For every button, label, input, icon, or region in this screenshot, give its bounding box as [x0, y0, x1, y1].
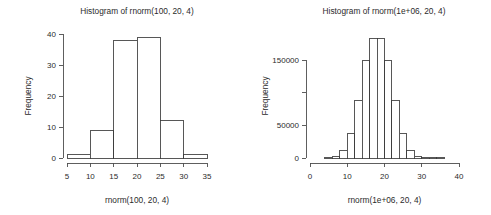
- histogram-bar: [399, 133, 406, 158]
- plot-title: Histogram of rnorm(1e+06, 20, 4): [323, 6, 446, 16]
- x-tick-label: 0: [308, 172, 313, 181]
- histogram-bar: [325, 157, 332, 158]
- y-tick-label: 30: [47, 61, 56, 70]
- x-tick-label: 5: [65, 172, 70, 181]
- histogram-bar: [160, 121, 183, 158]
- y-tick-label: 40: [47, 30, 56, 39]
- histogram-bars: [67, 37, 207, 158]
- histogram-bar: [429, 157, 436, 158]
- x-tick-label: 30: [417, 172, 426, 181]
- histogram-bar: [114, 40, 137, 158]
- x-tick-label: 15: [109, 172, 118, 181]
- x-axis-label: rnorm(100, 20, 4): [105, 195, 169, 205]
- y-tick-label: 10: [47, 123, 56, 132]
- x-axis: 010203040: [308, 163, 464, 181]
- x-axis-label: rnorm(1e+06, 20, 4): [348, 195, 422, 205]
- histogram-panel-left: Histogram of rnorm(100, 20, 4)0102030405…: [0, 0, 245, 215]
- histogram-bar: [414, 156, 421, 158]
- x-tick-label: 10: [86, 172, 95, 181]
- histogram-bar: [340, 151, 347, 158]
- x-tick-label: 20: [380, 172, 389, 181]
- histogram-bar: [137, 37, 160, 158]
- histogram-bar: [407, 151, 414, 158]
- histogram-bar: [184, 155, 207, 158]
- x-tick-label: 10: [343, 172, 352, 181]
- histogram-panel-right: Histogram of rnorm(1e+06, 20, 4)05000015…: [246, 0, 491, 215]
- y-axis-label: Frequency: [23, 76, 33, 116]
- y-tick-label: 20: [47, 92, 56, 101]
- histogram-bar: [437, 157, 444, 158]
- histogram-bar: [370, 39, 377, 158]
- y-tick-label: 150000: [272, 56, 299, 65]
- x-tick-label: 25: [156, 172, 165, 181]
- histogram-bar: [347, 133, 354, 158]
- y-tick-label: 50000: [277, 121, 300, 130]
- x-tick-label: 30: [179, 172, 188, 181]
- histogram-figure: Histogram of rnorm(100, 20, 4)0102030405…: [0, 0, 491, 215]
- histogram-svg-left: Histogram of rnorm(100, 20, 4)0102030405…: [0, 0, 245, 215]
- histogram-bars: [325, 39, 444, 158]
- y-axis-label: Frequency: [260, 76, 270, 116]
- y-axis: 050000150000: [272, 56, 306, 163]
- plot-title: Histogram of rnorm(100, 20, 4): [80, 6, 194, 16]
- histogram-bar: [90, 130, 113, 158]
- histogram-bar: [422, 157, 429, 158]
- y-tick-label: 0: [295, 154, 300, 163]
- histogram-bar: [67, 155, 90, 158]
- histogram-svg-right: Histogram of rnorm(1e+06, 20, 4)05000015…: [246, 0, 491, 215]
- x-axis: 5101520253035: [65, 163, 212, 181]
- x-tick-label: 35: [203, 172, 212, 181]
- y-tick-label: 0: [52, 154, 57, 163]
- x-tick-label: 40: [455, 172, 464, 181]
- histogram-bar: [385, 60, 392, 158]
- histogram-bar: [377, 39, 384, 158]
- histogram-bar: [355, 101, 362, 158]
- histogram-bar: [392, 101, 399, 158]
- y-axis: 010203040: [47, 30, 63, 163]
- histogram-bar: [362, 60, 369, 158]
- x-tick-label: 20: [133, 172, 142, 181]
- histogram-bar: [332, 156, 339, 158]
